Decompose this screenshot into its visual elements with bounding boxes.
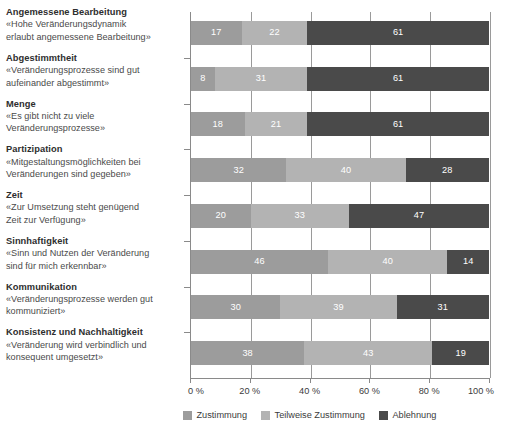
category-quote-line: kommuniziert» <box>6 305 176 317</box>
bar-segment-value: 20 <box>216 211 226 220</box>
bar-segment-value: 31 <box>256 74 266 83</box>
bar-row: 303931 <box>191 295 489 319</box>
bar-row: 182161 <box>191 112 489 136</box>
bar-segment: 21 <box>245 112 308 136</box>
bar-segment: 31 <box>215 67 307 91</box>
bar-segment-value: 61 <box>393 74 403 83</box>
stacked-bar-chart: Angemessene Bearbeitung«Hohe Veränderung… <box>0 0 505 439</box>
x-axis-line <box>190 378 489 379</box>
bar-segment: 32 <box>191 158 286 182</box>
category-title: Zeit <box>6 189 176 201</box>
bar-segment-value: 40 <box>382 257 392 266</box>
bar-segment-value: 38 <box>242 349 252 358</box>
category-quote-line: «Hohe Veränderungsdynamik <box>6 18 176 30</box>
x-tick-60 <box>369 378 370 383</box>
bar-row: 324028 <box>191 158 489 182</box>
category-label: Partizipation«Mitgestaltungsmöglichkeite… <box>6 143 176 180</box>
bar-segment: 20 <box>191 204 251 228</box>
bar-segment-value: 46 <box>254 257 264 266</box>
bar-segment: 38 <box>191 341 304 365</box>
category-quote-line: erlaubt angemessene Bearbeitung» <box>6 31 176 43</box>
category-separator-tick <box>184 149 190 150</box>
bar-segment-value: 30 <box>230 303 240 312</box>
category-title: Angemessene Bearbeitung <box>6 6 176 18</box>
x-axis-label-20: 20 % <box>239 386 260 396</box>
legend-item: Teilweise Zustimmung <box>261 411 365 420</box>
bar-segment: 47 <box>349 204 489 228</box>
bar-segment: 39 <box>280 295 396 319</box>
bar-segment-value: 61 <box>393 120 403 129</box>
bar-segment: 40 <box>328 250 447 274</box>
plot-area: 1722618316118216132402820334746401430393… <box>190 12 489 378</box>
category-label: Angemessene Bearbeitung«Hohe Veränderung… <box>6 6 176 43</box>
x-tick-40 <box>310 378 311 383</box>
bar-row: 83161 <box>191 67 489 91</box>
x-axis-label-60: 60 % <box>359 386 380 396</box>
legend-swatch-icon <box>183 411 192 420</box>
x-tick-20 <box>250 378 251 383</box>
bar-segment-value: 18 <box>213 120 223 129</box>
bar-segment-value: 19 <box>455 349 465 358</box>
legend-swatch-icon <box>379 411 388 420</box>
bar-row: 203347 <box>191 204 489 228</box>
bar-segment: 61 <box>307 112 489 136</box>
bar-row: 384319 <box>191 341 489 365</box>
bar-segment: 19 <box>432 341 489 365</box>
bar-segment-value: 33 <box>295 211 305 220</box>
bar-segment: 8 <box>191 67 215 91</box>
bar-segment: 61 <box>307 21 489 45</box>
bar-segment: 22 <box>242 21 308 45</box>
category-quote-line: «Veränderung wird verbindlich und <box>6 339 176 351</box>
category-separator-tick <box>184 332 190 333</box>
category-quote-line: Zeit zur Verfügung» <box>6 214 176 226</box>
category-separator-tick <box>184 241 190 242</box>
category-label: Zeit«Zur Umsetzung steht genügendZeit zu… <box>6 189 176 226</box>
chart-legend: ZustimmungTeilweise ZustimmungAblehnung <box>183 411 436 420</box>
bar-segment-value: 14 <box>463 257 473 266</box>
bar-segment: 31 <box>397 295 489 319</box>
category-separator-tick <box>184 104 190 105</box>
category-label-column: Angemessene Bearbeitung«Hohe Veränderung… <box>0 0 176 380</box>
category-title: Konsistenz und Nachhaltigkeit <box>6 326 176 338</box>
legend-label: Teilweise Zustimmung <box>275 411 365 420</box>
legend-label: Zustimmung <box>197 411 248 420</box>
legend-item: Ablehnung <box>379 411 436 420</box>
category-separator-tick <box>184 58 190 59</box>
x-tick-0 <box>190 378 191 383</box>
category-separator-tick <box>184 287 190 288</box>
bar-segment-value: 21 <box>271 120 281 129</box>
category-quote-line: «Zur Umsetzung steht genügend <box>6 201 176 213</box>
bar-segment: 33 <box>251 204 349 228</box>
category-label: Sinnhaftigkeit«Sinn und Nutzen der Verän… <box>6 235 176 272</box>
bar-segment-value: 8 <box>200 74 205 83</box>
bar-segment-value: 47 <box>414 211 424 220</box>
x-tick-80 <box>429 378 430 383</box>
category-title: Menge <box>6 98 176 110</box>
x-axis-label-0: 0 % <box>188 386 204 396</box>
bar-segment: 43 <box>304 341 432 365</box>
category-separator-tick <box>184 195 190 196</box>
bar-segment: 28 <box>406 158 489 182</box>
bar-row: 464014 <box>191 250 489 274</box>
category-title: Kommunikation <box>6 281 176 293</box>
gridline-100 <box>490 12 491 378</box>
bar-segment: 18 <box>191 112 245 136</box>
category-quote-line: «Veränderungsprozesse werden gut <box>6 293 176 305</box>
legend-swatch-icon <box>261 411 270 420</box>
category-title: Sinnhaftigkeit <box>6 235 176 247</box>
category-title: Abgestimmtheit <box>6 52 176 64</box>
category-quote-line: konsequent umgesetzt» <box>6 351 176 363</box>
x-tick-100 <box>489 378 490 383</box>
category-quote-line: «Mitgestaltungsmöglichkeiten bei <box>6 156 176 168</box>
category-title: Partizipation <box>6 143 176 155</box>
x-axis-label-80: 80 % <box>419 386 440 396</box>
legend-item: Zustimmung <box>183 411 247 420</box>
category-label: Kommunikation«Veränderungsprozesse werde… <box>6 281 176 318</box>
bar-segment: 61 <box>307 67 489 91</box>
category-quote-line: Veränderungsprozesse» <box>6 122 176 134</box>
bar-segment: 14 <box>447 250 489 274</box>
bar-segment-value: 39 <box>333 303 343 312</box>
bar-segment-value: 61 <box>393 28 403 37</box>
category-quote-line: «Sinn und Nutzen der Veränderung <box>6 247 176 259</box>
x-axis-label-100: 100 % <box>468 386 494 396</box>
